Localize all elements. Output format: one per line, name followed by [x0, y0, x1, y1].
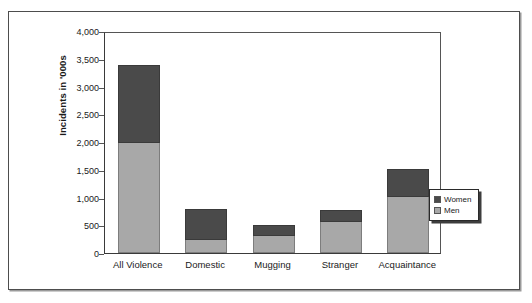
bar-segment-men[interactable] — [185, 239, 227, 253]
y-axis-tick-mark — [99, 199, 104, 200]
stacked-bar-chart: Incidents in '000s 05001,0001,5002,0002,… — [9, 12, 521, 291]
y-axis-tick-label: 2,000 — [55, 139, 99, 148]
chart-legend: WomenMen — [429, 189, 479, 221]
y-axis-tick-label: 4,000 — [55, 28, 99, 37]
bar-segment-men[interactable] — [118, 142, 160, 253]
chart-figure-frame: Incidents in '000s 05001,0001,5002,0002,… — [8, 11, 520, 290]
bar-segment-women[interactable] — [185, 209, 227, 240]
bar-segment-women[interactable] — [118, 65, 160, 143]
bar-segment-women[interactable] — [387, 169, 429, 197]
x-axis-category-label: Acquaintance — [379, 259, 437, 270]
y-axis-tick-label: 1,500 — [55, 166, 99, 175]
bar-segment-men[interactable] — [320, 221, 362, 253]
x-axis-category-label: Mugging — [254, 259, 290, 270]
y-axis-tick-mark — [99, 115, 104, 116]
y-axis-tick-mark — [99, 60, 104, 61]
y-axis-tick-label: 0 — [55, 250, 99, 259]
y-axis-tick-label: 3,500 — [55, 55, 99, 64]
y-axis-tick-label: 1,000 — [55, 194, 99, 203]
plot-area — [104, 32, 441, 254]
legend-item[interactable]: Men — [434, 205, 475, 216]
x-axis-category-label: All Violence — [113, 259, 162, 270]
y-axis-tick-label: 3,000 — [55, 83, 99, 92]
y-axis-tick-label: 2,500 — [55, 111, 99, 120]
legend-color-swatch-icon — [434, 207, 441, 214]
y-axis-tick-mark — [99, 32, 104, 33]
legend-item-label: Men — [444, 207, 460, 215]
legend-item-label: Women — [444, 196, 471, 204]
y-axis-tick-label: 500 — [55, 222, 99, 231]
y-axis-tick-mark — [99, 143, 104, 144]
bar-segment-women[interactable] — [320, 210, 362, 222]
legend-color-swatch-icon — [434, 196, 441, 203]
y-axis-tick-mark — [99, 226, 104, 227]
x-axis-category-label: Stranger — [322, 259, 358, 270]
y-axis-tick-mark — [99, 171, 104, 172]
y-axis-tick-mark — [99, 88, 104, 89]
legend-item[interactable]: Women — [434, 194, 475, 205]
bar-segment-women[interactable] — [253, 225, 295, 235]
y-axis-tick-mark — [99, 254, 104, 255]
y-axis-tick-labels: 05001,0001,5002,0002,5003,0003,5004,000 — [49, 12, 99, 291]
x-axis-category-label: Domestic — [185, 259, 225, 270]
bar-segment-men[interactable] — [387, 196, 429, 253]
bar-segment-men[interactable] — [253, 235, 295, 253]
